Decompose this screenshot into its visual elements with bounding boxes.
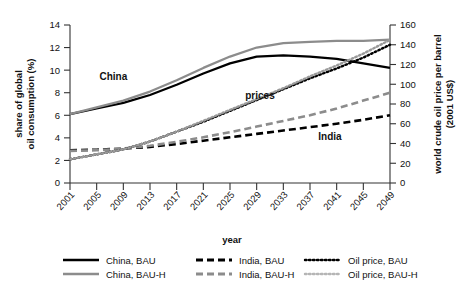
y-axis-right-title-line1: world crude oil price per barrel bbox=[432, 34, 443, 174]
y-axis-right-tick-label: 140 bbox=[400, 39, 416, 50]
x-axis-tick-label: 2013 bbox=[134, 189, 156, 212]
x-axis-ticks: 2001200520092013201720212025202920332037… bbox=[54, 183, 396, 212]
x-axis-tick-label: 2009 bbox=[107, 189, 129, 212]
legend-item: China, BAU bbox=[63, 255, 156, 266]
legend-label: India, BAU-H bbox=[239, 269, 295, 280]
x-axis-tick-label: 2001 bbox=[54, 189, 76, 212]
y-axis-left-tick-label: 10 bbox=[49, 65, 60, 76]
y-axis-left-title-line2: oil consumption (%) bbox=[25, 59, 36, 150]
x-axis-tick-label: 2049 bbox=[374, 189, 396, 212]
legend-label: Oil price, BAU-H bbox=[348, 269, 418, 280]
x-axis-tick-label: 2025 bbox=[214, 189, 236, 212]
legend-label: Oil price, BAU bbox=[348, 255, 408, 266]
y-axis-right-tick-label: 100 bbox=[400, 79, 416, 90]
inline-series-label: prices bbox=[245, 90, 275, 101]
x-axis-tick-label: 2037 bbox=[294, 189, 316, 212]
y-axis-left-tick-label: 8 bbox=[55, 87, 60, 98]
y-axis-left-tick-label: 4 bbox=[55, 132, 60, 143]
y-axis-right-tick-label: 0 bbox=[400, 177, 405, 188]
y-axis-left-ticks: 02468101214 bbox=[49, 19, 70, 188]
x-axis-tick-label: 2033 bbox=[267, 189, 289, 212]
legend-item: China, BAU-H bbox=[63, 269, 166, 280]
inline-series-label: India bbox=[318, 131, 342, 142]
x-axis-tick-label: 2017 bbox=[161, 189, 183, 212]
legend-label: China, BAU bbox=[106, 255, 156, 266]
chart-container: 02468101214 020406080100120140160 200120… bbox=[0, 0, 471, 291]
y-axis-left-tick-label: 0 bbox=[55, 177, 60, 188]
y-axis-left-tick-label: 2 bbox=[55, 155, 60, 166]
y-axis-left-tick-label: 14 bbox=[49, 19, 60, 30]
legend-label: China, BAU-H bbox=[106, 269, 166, 280]
x-axis-tick-label: 2005 bbox=[81, 189, 103, 212]
inline-annotations: ChinapricesIndia bbox=[99, 71, 342, 142]
x-axis-tick-label: 2041 bbox=[321, 189, 343, 212]
y-axis-right-ticks: 020406080100120140160 bbox=[390, 19, 416, 188]
y-axis-right-tick-label: 60 bbox=[400, 118, 411, 129]
y-axis-right-tick-label: 160 bbox=[400, 19, 416, 30]
legend-item: India, BAU bbox=[196, 255, 285, 266]
y-axis-right-tick-label: 80 bbox=[400, 98, 411, 109]
x-axis-title: year bbox=[222, 234, 242, 245]
y-axis-right-title-line2: (2001 US$) bbox=[444, 80, 455, 129]
legend-item: Oil price, BAU bbox=[305, 255, 408, 266]
chart-legend: China, BAUIndia, BAUOil price, BAUChina,… bbox=[63, 255, 418, 280]
legend-item: Oil price, BAU-H bbox=[305, 269, 418, 280]
y-axis-right-tick-label: 120 bbox=[400, 59, 416, 70]
x-axis-tick-label: 2045 bbox=[347, 189, 369, 212]
series-line bbox=[70, 115, 390, 150]
y-axis-left-tick-label: 6 bbox=[55, 110, 60, 121]
y-axis-right-tick-label: 20 bbox=[400, 158, 411, 169]
inline-series-label: China bbox=[99, 71, 127, 82]
y-axis-left-title-line1: share of global bbox=[13, 70, 24, 138]
x-axis-tick-label: 2029 bbox=[241, 189, 263, 212]
data-series-layer bbox=[70, 40, 390, 160]
legend-item: India, BAU-H bbox=[196, 269, 295, 280]
y-axis-right-tick-label: 40 bbox=[400, 138, 411, 149]
oil-consumption-price-chart: 02468101214 020406080100120140160 200120… bbox=[0, 0, 471, 291]
y-axis-left-tick-label: 12 bbox=[49, 42, 60, 53]
x-axis-tick-label: 2021 bbox=[187, 189, 209, 212]
legend-label: India, BAU bbox=[239, 255, 285, 266]
